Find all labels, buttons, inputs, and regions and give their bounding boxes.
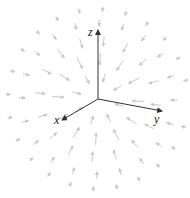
field-arrow (49, 133, 57, 139)
field-arrow (38, 114, 48, 117)
field-arrow (48, 172, 51, 176)
field-arrow (142, 35, 146, 41)
field-arrow (181, 126, 186, 128)
field-arrow (75, 23, 77, 30)
field-arrow (156, 143, 162, 147)
field-arrow (92, 152, 93, 162)
field-arrow (122, 24, 124, 31)
field-arrow (107, 114, 111, 122)
field-arrow (36, 30, 39, 34)
field-arrow (145, 124, 154, 129)
field-arrow (69, 182, 71, 187)
field-arrow (10, 70, 15, 72)
field-arrow (96, 133, 97, 145)
field-arrow (119, 168, 121, 175)
field-arrow (125, 11, 127, 16)
field-arrow (29, 158, 33, 161)
field-arrow (151, 104, 161, 105)
y-axis (98, 99, 162, 111)
field-arrow (59, 74, 69, 81)
x-axis-label: x (54, 114, 59, 126)
field-arrow (132, 101, 144, 102)
field-arrow (73, 92, 82, 94)
field-arrow (167, 123, 174, 125)
field-arrow (171, 147, 175, 150)
field-arrow (91, 116, 93, 125)
field-arrow (100, 53, 101, 65)
field-arrow (20, 49, 24, 52)
z-axis-label: z (88, 26, 93, 38)
field-arrow (113, 129, 119, 140)
field-arrow (163, 37, 167, 40)
field-arrow (113, 150, 116, 160)
field-arrow (22, 120, 29, 122)
field-arrow (184, 80, 189, 81)
field-arrow (80, 39, 83, 49)
field-arrow (103, 36, 104, 46)
field-arrow (56, 17, 58, 21)
field-arrow (103, 74, 105, 83)
field-arrow (85, 76, 89, 84)
field-arrow (35, 93, 45, 94)
field-arrow (79, 9, 80, 14)
vector-field-diagram (0, 0, 190, 198)
field-arrow (127, 118, 137, 125)
field-arrow (72, 168, 74, 175)
field-arrow (16, 139, 20, 141)
field-arrow (157, 164, 160, 168)
field-arrow (23, 73, 30, 75)
field-arrow (149, 81, 159, 84)
field-arrow (52, 97, 64, 98)
field-arrow (132, 140, 138, 148)
field-arrow (146, 21, 149, 25)
field-arrow (139, 59, 147, 65)
field-arrow (117, 60, 124, 70)
field-arrow (138, 177, 140, 181)
field-arrow (68, 146, 73, 155)
field-arrow (8, 117, 13, 118)
field-arrow (176, 57, 180, 59)
field-arrow (115, 104, 124, 106)
field-arrow (140, 158, 144, 164)
field-arrow (167, 76, 174, 78)
field-arrow (128, 78, 139, 84)
field-arrow (73, 128, 80, 138)
field-arrow (42, 69, 51, 74)
y-axis-label: y (154, 113, 159, 125)
axes (62, 30, 162, 120)
field-arrow (50, 157, 54, 163)
field-arrow (52, 34, 56, 40)
field-arrow (58, 50, 64, 58)
field-arrow (157, 53, 163, 57)
field-arrow (123, 43, 128, 52)
field-arrow (34, 51, 40, 55)
field-arrow (77, 58, 83, 69)
field-arrow (33, 141, 39, 145)
field-arrow (116, 185, 117, 190)
field-arrow (113, 86, 121, 90)
